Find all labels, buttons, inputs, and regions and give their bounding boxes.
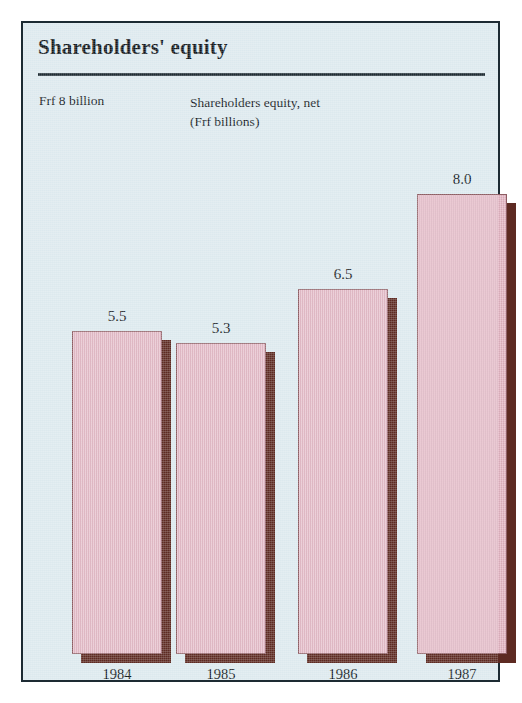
bar-category-label: 1986 (298, 666, 388, 683)
figure-root: Shareholders' equity Frf 8 billion Share… (0, 0, 522, 703)
bar-1985[interactable] (176, 343, 266, 654)
bar-1987[interactable] (417, 194, 507, 654)
plot-area: 5.519845.319856.519868.01987 (23, 23, 498, 680)
bar-category-label: 1987 (417, 666, 507, 683)
bar-1986[interactable] (298, 289, 388, 654)
chart-panel: Shareholders' equity Frf 8 billion Share… (21, 21, 500, 682)
bar-value-label: 6.5 (298, 266, 388, 283)
bar-1984[interactable] (72, 331, 162, 654)
bar-category-label: 1984 (72, 666, 162, 683)
bar-value-label: 5.5 (72, 308, 162, 325)
bar-value-label: 8.0 (417, 171, 507, 188)
bar-category-label: 1985 (176, 666, 266, 683)
bar-value-label: 5.3 (176, 320, 266, 337)
